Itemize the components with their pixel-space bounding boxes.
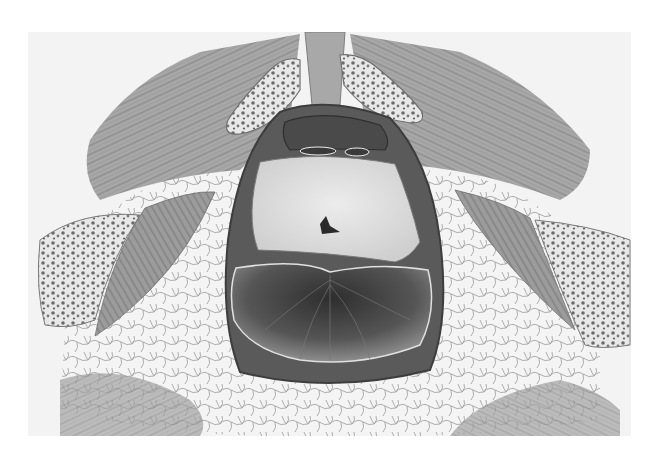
small-lumen-left xyxy=(300,147,336,155)
image-frame xyxy=(0,0,655,452)
anatomical-illustration xyxy=(28,32,631,436)
lower-cavity xyxy=(231,264,431,362)
small-lumen-right xyxy=(345,148,369,156)
illustration-plate xyxy=(28,32,631,436)
central-mass xyxy=(252,156,420,262)
midline-ligament xyxy=(305,32,345,105)
